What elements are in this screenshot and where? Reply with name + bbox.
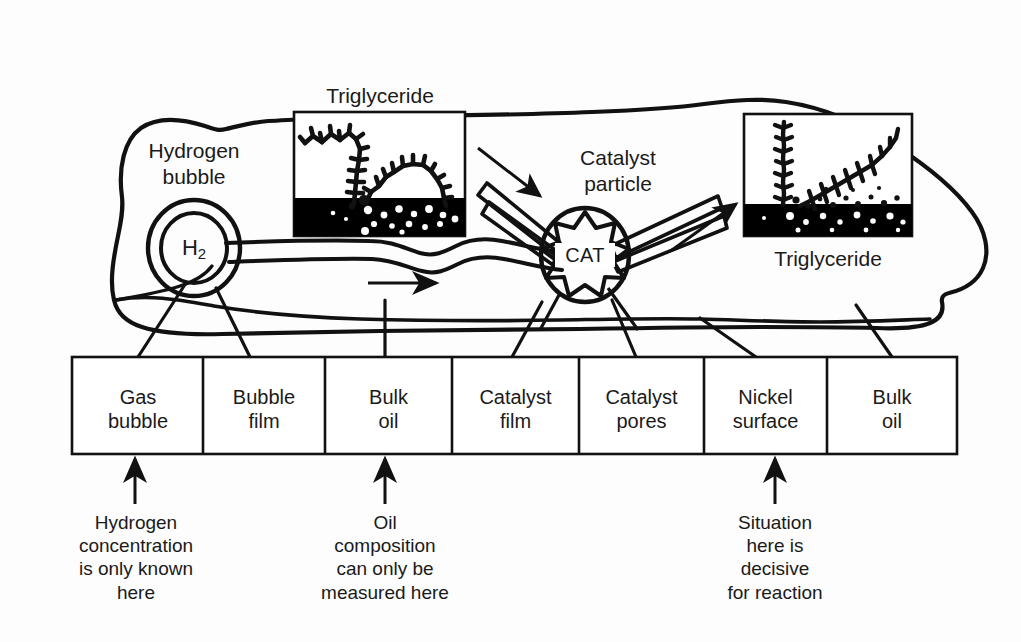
leader-bubble-film xyxy=(216,288,250,357)
inset-triglyceride-left xyxy=(294,112,465,236)
hydrogen-species-label: H2 xyxy=(164,235,224,263)
h2-symbol: H xyxy=(182,235,198,260)
caption-oil-composition: Oil composition can only be measured her… xyxy=(289,511,481,604)
catalyst-core-label: CAT xyxy=(555,243,615,267)
zone-label-catalyst-pores: Catalyst pores xyxy=(581,385,702,434)
hydrogen-bubble-label: Hydrogen bubble xyxy=(132,138,256,189)
zone-label-bubble-film: Bubble film xyxy=(205,385,323,434)
leader-nickel-surface xyxy=(700,318,756,357)
catalyst-particle-label: Catalyst particle xyxy=(556,145,680,196)
leader-bulk-oil-right xyxy=(856,305,892,357)
caption-arrows xyxy=(135,459,775,504)
zone-label-bulk-oil-left: Bulk oil xyxy=(327,385,450,434)
caption-hydrogen-concentration: Hydrogen concentration is only known her… xyxy=(40,511,232,604)
inset-triglyceride-right xyxy=(744,114,912,236)
inset-left-caption: Triglyceride xyxy=(315,83,445,109)
zone-label-bulk-oil-right: Bulk oil xyxy=(829,385,955,434)
zone-label-gas-bubble: Gas bubble xyxy=(78,385,198,434)
zone-label-catalyst-film: Catalyst film xyxy=(454,385,577,434)
figure-canvas: Hydrogen bubble H2 Catalyst particle CAT… xyxy=(0,0,1021,642)
zone-label-nickel-surface: Nickel surface xyxy=(706,385,825,434)
arrow-to-catalyst xyxy=(478,148,540,196)
caption-situation-decisive: Situation here is decisive for reaction xyxy=(679,511,871,604)
h2-subscript: 2 xyxy=(198,245,206,262)
inset-right-caption: Triglyceride xyxy=(763,246,893,272)
hydrogen-transport-tube xyxy=(226,239,562,283)
